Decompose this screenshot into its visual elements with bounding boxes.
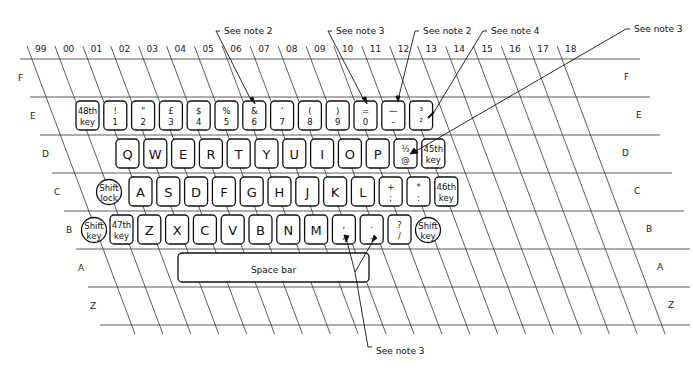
- column-line: [557, 46, 665, 334]
- key-Z[interactable]: Z: [138, 215, 161, 244]
- key-H[interactable]: H: [268, 177, 291, 206]
- key-label: V: [228, 223, 237, 238]
- key-47th[interactable]: 47thkey: [110, 215, 133, 244]
- key-top-label: %: [222, 106, 230, 116]
- row-label-E: E: [30, 111, 36, 121]
- key-top-label: *: [416, 182, 420, 192]
- note-label: See note 3: [376, 346, 425, 356]
- key-I[interactable]: I: [311, 139, 334, 168]
- column-label: 05: [202, 44, 213, 54]
- key-shift-right[interactable]: Shiftkey: [416, 218, 441, 243]
- key-label: Space bar: [251, 265, 297, 275]
- column-labels: 9900010203040506070809101112131415161718: [35, 44, 577, 54]
- key-bottom-label: 7: [279, 117, 284, 127]
- key-label: Z: [145, 223, 154, 238]
- key-label: W: [149, 147, 162, 162]
- key-9[interactable]: )9: [326, 101, 349, 130]
- note-label: See note 2: [423, 26, 472, 36]
- row-label-F: F: [18, 73, 23, 83]
- key-X[interactable]: X: [166, 215, 189, 244]
- key-semicolon[interactable]: +;: [379, 177, 402, 206]
- key-L[interactable]: L: [351, 177, 374, 206]
- key-R[interactable]: R: [199, 139, 222, 168]
- key-top-label: ³: [419, 106, 422, 116]
- key-label: O: [345, 147, 355, 162]
- column-label: 06: [230, 44, 242, 54]
- key-1[interactable]: !1: [104, 101, 127, 130]
- key-top-label: ": [141, 106, 145, 116]
- key-4[interactable]: $4: [187, 101, 210, 130]
- key-S[interactable]: S: [157, 177, 180, 206]
- key-7[interactable]: '7: [271, 101, 294, 130]
- row-label-C: C: [54, 187, 60, 197]
- key-top-label: ,: [343, 220, 346, 230]
- key-O[interactable]: O: [338, 139, 361, 168]
- key-V[interactable]: V: [221, 215, 244, 244]
- leader-note3-right: [416, 29, 630, 151]
- key-J[interactable]: J: [296, 177, 319, 206]
- key-D[interactable]: D: [185, 177, 208, 206]
- key-E[interactable]: E: [172, 139, 195, 168]
- key-slash[interactable]: ?/: [388, 215, 411, 244]
- key-2[interactable]: "2: [132, 101, 155, 130]
- key-comma[interactable]: ,,: [332, 215, 355, 244]
- column-label: 02: [119, 44, 130, 54]
- row-label-C-right: C: [634, 186, 640, 196]
- key-A[interactable]: A: [129, 177, 152, 206]
- key-label: J: [304, 185, 309, 200]
- column-label: 16: [509, 44, 521, 54]
- key-B[interactable]: B: [249, 215, 272, 244]
- key-label: F: [220, 185, 227, 200]
- column-label: 07: [258, 44, 269, 54]
- key-45th[interactable]: 45thkey: [422, 139, 445, 168]
- row-label-B-right: B: [646, 224, 652, 234]
- key-top-label: ': [281, 106, 283, 116]
- key-N[interactable]: N: [277, 215, 300, 244]
- key-F[interactable]: F: [212, 177, 235, 206]
- column-label: 10: [342, 44, 354, 54]
- key-top-label: $: [196, 106, 201, 116]
- key-8[interactable]: (8: [298, 101, 321, 130]
- key-space[interactable]: Space bar: [178, 253, 369, 282]
- key-label: X: [173, 223, 182, 238]
- column-label: 11: [370, 44, 381, 54]
- key-46th[interactable]: 46thkey: [435, 177, 458, 206]
- key-bottom-label: 4: [196, 117, 201, 127]
- key-period[interactable]: ..: [360, 215, 383, 244]
- key-top-label: Shift: [84, 221, 104, 231]
- key-P[interactable]: P: [366, 139, 389, 168]
- leader-note2-minus: [398, 31, 419, 100]
- row-label-A: A: [78, 263, 85, 273]
- column-label: 18: [565, 44, 577, 54]
- key-U[interactable]: U: [283, 139, 306, 168]
- key-0[interactable]: =0: [354, 101, 377, 130]
- key-5[interactable]: %5: [215, 101, 238, 130]
- column-label: 01: [91, 44, 102, 54]
- key-Y[interactable]: Y: [255, 139, 278, 168]
- column-label: 03: [147, 44, 158, 54]
- key-W[interactable]: W: [144, 139, 167, 168]
- key-C[interactable]: C: [193, 215, 216, 244]
- key-top-label: .: [370, 220, 373, 230]
- row-label-Z: Z: [90, 301, 96, 311]
- key-M[interactable]: M: [305, 215, 328, 244]
- key-K[interactable]: K: [324, 177, 347, 206]
- column-label: 14: [454, 44, 466, 54]
- key-Q[interactable]: Q: [116, 139, 139, 168]
- key-3[interactable]: £3: [159, 101, 182, 130]
- key-colon[interactable]: *:: [407, 177, 430, 206]
- note-label: See note 2: [224, 26, 273, 36]
- key-minus[interactable]: —–: [382, 101, 405, 130]
- key-shift-lock[interactable]: Shiftlock: [97, 180, 122, 205]
- column-line: [501, 46, 609, 334]
- key-top-label: (: [308, 106, 311, 116]
- key-6[interactable]: &6: [243, 101, 266, 130]
- key-top-label: 48th: [78, 106, 98, 116]
- key-label: E: [179, 147, 187, 162]
- key-T[interactable]: T: [227, 139, 250, 168]
- key-top-label: Shift: [99, 183, 119, 193]
- key-label: T: [234, 147, 243, 162]
- key-G[interactable]: G: [240, 177, 263, 206]
- key-48th[interactable]: 48thkey: [76, 101, 99, 130]
- key-shift-left[interactable]: Shiftkey: [82, 218, 107, 243]
